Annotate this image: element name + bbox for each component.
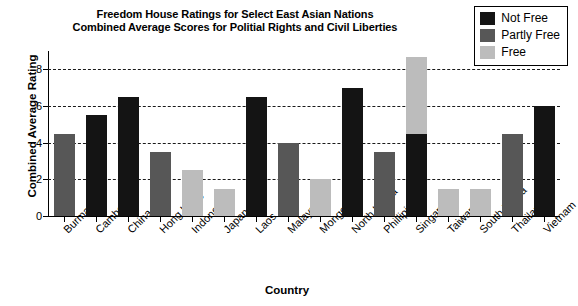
bar — [406, 134, 427, 217]
x-tick-mark — [352, 216, 353, 222]
legend-swatch-icon — [480, 12, 495, 25]
bar — [214, 189, 235, 217]
legend-swatch-icon — [480, 46, 495, 59]
legend-item-label: Partly Free — [501, 29, 560, 42]
bar — [246, 97, 267, 216]
bar — [342, 88, 363, 216]
x-tick-mark — [256, 216, 257, 222]
chart-legend: Not FreePartly FreeFree — [474, 6, 568, 66]
x-tick-mark — [544, 216, 545, 222]
x-tick-mark — [384, 216, 385, 222]
bar — [150, 152, 171, 216]
legend-item-label: Not Free — [501, 12, 548, 25]
bar — [118, 97, 139, 216]
bar — [86, 115, 107, 216]
bar — [438, 189, 459, 217]
legend-item: Partly Free — [480, 27, 560, 44]
y-tick-label: 6 — [22, 101, 42, 112]
bar — [278, 143, 299, 216]
y-tick-label: 4 — [22, 138, 42, 149]
bar — [502, 134, 523, 217]
bar — [182, 170, 203, 216]
y-axis-line — [48, 51, 49, 216]
y-tick-label: 0 — [22, 211, 42, 222]
x-tick-mark — [416, 216, 417, 222]
y-tick-mark — [43, 216, 48, 217]
legend-item: Free — [480, 44, 560, 61]
legend-swatch-icon — [480, 29, 495, 42]
y-tick-mark — [43, 179, 48, 180]
x-tick-mark — [96, 216, 97, 222]
x-tick-mark — [160, 216, 161, 222]
x-axis-label: Country — [0, 284, 574, 296]
x-tick-mark — [448, 216, 449, 222]
bar — [374, 152, 395, 216]
bar — [54, 134, 75, 217]
y-tick-mark — [43, 143, 48, 144]
legend-item-label: Free — [501, 46, 526, 59]
plot-area: 02468BurmaCambodiaChinaHong KongIndonesi… — [48, 51, 560, 216]
x-tick-mark — [192, 216, 193, 222]
y-tick-label: 8 — [22, 64, 42, 75]
x-tick-mark — [288, 216, 289, 222]
bar — [470, 189, 491, 217]
chart-title-line-1: Freedom House Ratings for Select East As… — [0, 8, 470, 21]
chart-title: Freedom House Ratings for Select East As… — [0, 8, 470, 34]
x-tick-mark — [128, 216, 129, 222]
x-tick-mark — [64, 216, 65, 222]
y-tick-label: 2 — [22, 174, 42, 185]
gridline — [48, 69, 560, 70]
bar — [534, 106, 555, 216]
y-tick-mark — [43, 69, 48, 70]
x-tick-mark — [480, 216, 481, 222]
chart-title-line-2: Combined Average Scores for Politial Rig… — [0, 21, 470, 34]
x-tick-mark — [224, 216, 225, 222]
x-tick-mark — [320, 216, 321, 222]
y-tick-mark — [43, 106, 48, 107]
bar — [310, 179, 331, 216]
legend-item: Not Free — [480, 10, 560, 27]
x-tick-mark — [512, 216, 513, 222]
